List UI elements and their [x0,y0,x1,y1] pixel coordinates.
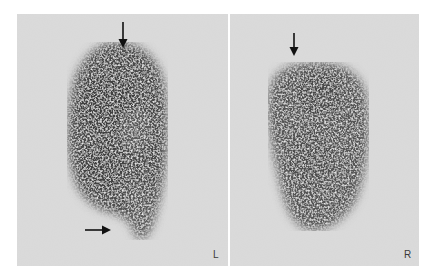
uptake-blob-right [230,14,419,266]
arrow-right-icon [85,224,112,236]
side-label-left: L [213,250,219,260]
uptake-blob-left [17,14,228,266]
arrow-down-icon [117,22,129,49]
scan-panel-left: L [17,14,228,266]
side-label-right: R [404,250,411,260]
arrow-down-icon [288,33,300,57]
scan-panel-right: R [230,14,419,266]
